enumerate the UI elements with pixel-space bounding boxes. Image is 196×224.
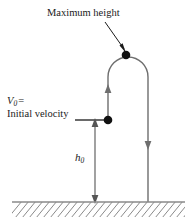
initial-velocity-description: Initial velocity [7,108,69,119]
maximum-height-point-marker [122,51,131,60]
ascent-arrow-icon [105,84,112,93]
h0-subscript: 0 [81,156,85,165]
initial-position-point-marker [104,116,113,125]
h0-dimension-line [92,118,99,204]
physics-diagram-figure: Maximum height V0= Initial velocity h0 [0,0,196,224]
max-height-leader-line [105,22,126,53]
h0-label: h0 [75,152,84,165]
trajectory-path [108,57,148,202]
v0-equals-sign: = [17,95,24,106]
initial-velocity-label: V0= Initial velocity [7,95,69,119]
initial-velocity-symbol-line: V0= [7,95,69,108]
maximum-height-label: Maximum height [47,7,120,18]
descent-arrow-icon [145,141,152,150]
ground-hatching [8,201,196,218]
